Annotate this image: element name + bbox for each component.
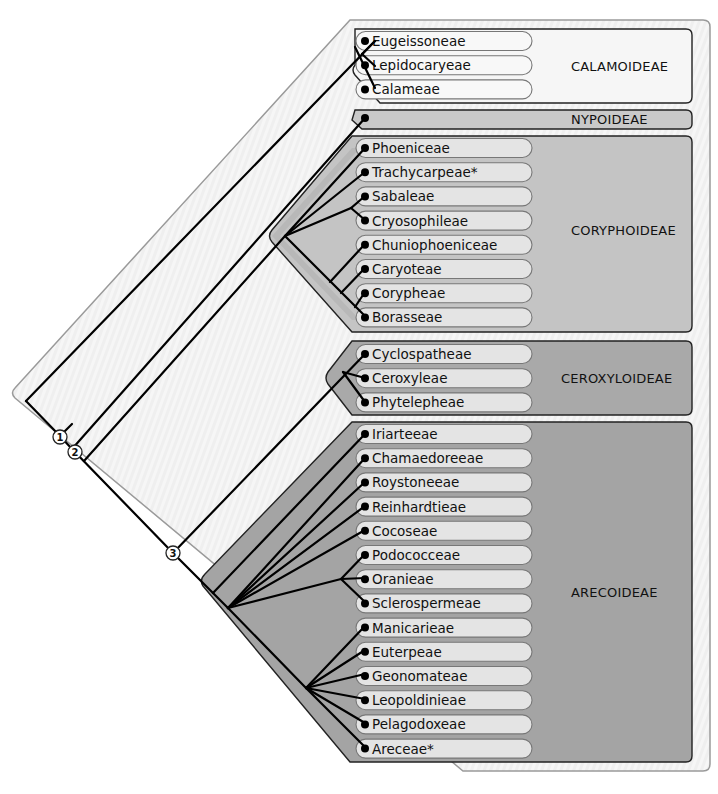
tip-dot-nypoideae xyxy=(361,114,369,122)
node-2: 2 xyxy=(68,445,82,459)
tribe-pill: Cryosophileae xyxy=(356,211,532,230)
tribe-pill: Cyclospatheae xyxy=(356,345,532,364)
tribe-label: Ceroxyleae xyxy=(372,370,447,386)
tip-dot-icon xyxy=(361,37,369,45)
tribe-label: Chuniophoeniceae xyxy=(372,237,497,253)
tribe-pill: Lepidocaryeae xyxy=(356,56,532,75)
svg-text:3: 3 xyxy=(170,548,177,559)
tribe-pill: Calameae xyxy=(356,80,532,99)
tribe-pill: Chuniophoeniceae xyxy=(356,235,532,254)
tribe-pill: Borasseae xyxy=(356,308,532,327)
label-nypoideae: NYPOIDEAE xyxy=(571,112,648,127)
tribe-label: Phoeniceae xyxy=(372,140,450,156)
tribe-pill: Caryoteae xyxy=(356,260,532,279)
node-1: 1 xyxy=(53,430,67,444)
tribe-label: Borasseae xyxy=(372,309,442,325)
tribe-label: Calameae xyxy=(372,81,440,97)
label-arecoideae: ARECOIDEAE xyxy=(571,585,658,600)
svg-text:2: 2 xyxy=(72,447,79,458)
tribe-label: Chamaedoreeae xyxy=(372,450,483,466)
tribe-label: Cryosophileae xyxy=(372,213,468,229)
tribe-label: Iriarteeae xyxy=(372,426,438,442)
tribe-label: Manicarieae xyxy=(372,620,454,636)
label-coryphoideae: CORYPHOIDEAE xyxy=(571,223,676,238)
tribe-label: Podococceae xyxy=(372,547,460,563)
tribe-label: Euterpeae xyxy=(372,644,442,660)
tribe-label: Cocoseae xyxy=(372,523,437,539)
svg-text:1: 1 xyxy=(57,432,64,443)
tribe-label: Eugeissoneae xyxy=(372,33,465,49)
tribe-label: Leopoldinieae xyxy=(372,692,466,708)
tribe-pill: Euterpeae xyxy=(356,642,532,661)
tribe-label: Sclerospermeae xyxy=(372,595,481,611)
tribe-label: Sabaleae xyxy=(372,188,434,204)
tribe-label: Areceae* xyxy=(372,741,434,757)
tribe-pill: Podococceae xyxy=(356,546,532,565)
tribe-label: Roystoneeae xyxy=(372,474,459,490)
tribe-pill: Leopoldinieae xyxy=(356,691,532,710)
tribe-pill: Sclerospermeae xyxy=(356,594,532,613)
tribe-label: Lepidocaryeae xyxy=(372,57,471,73)
tribe-pill: Phoeniceae xyxy=(356,139,532,158)
tribe-label: Reinhardtieae xyxy=(372,499,466,515)
tribe-pill: Corypheae xyxy=(356,284,532,303)
tribe-label: Geonomateae xyxy=(372,668,467,684)
tribe-label: Pelagodoxeae xyxy=(372,716,466,732)
label-calamoideae: CALAMOIDEAE xyxy=(571,59,668,74)
tribe-pill: Trachycarpeae* xyxy=(356,163,532,182)
label-ceroxyloideae: CEROXYLOIDEAE xyxy=(561,371,672,386)
tribe-pill: Manicarieae xyxy=(356,618,532,637)
phylogeny-diagram: EugeissoneaeLepidocaryeaeCalameaePhoenic… xyxy=(0,0,718,794)
tribe-pill: Iriarteeae xyxy=(356,425,532,444)
tribe-pill: Cocoseae xyxy=(356,521,532,540)
tribe-label: Cyclospatheae xyxy=(372,346,471,362)
tribe-pill: Sabaleae xyxy=(356,187,532,206)
tribe-pill: Oranieae xyxy=(356,570,532,589)
tribe-pill: Eugeissoneae xyxy=(356,32,532,51)
node-3: 3 xyxy=(166,546,180,560)
tip-dot-icon xyxy=(361,85,369,93)
tribe-label: Corypheae xyxy=(372,285,445,301)
tribe-pill: Geonomateae xyxy=(356,667,532,686)
tribe-label: Trachycarpeae* xyxy=(371,164,478,180)
tribe-pill: Reinhardtieae xyxy=(356,497,532,516)
tribe-pill: Ceroxyleae xyxy=(356,369,532,388)
tribe-pill: Chamaedoreeae xyxy=(356,449,532,468)
tribe-pill: Roystoneeae xyxy=(356,473,532,492)
tribe-label: Oranieae xyxy=(372,571,434,587)
tribe-label: Phytelepheae xyxy=(372,394,464,410)
tribe-pill: Areceae* xyxy=(356,739,532,758)
tribe-pill: Pelagodoxeae xyxy=(356,715,532,734)
tribe-label: Caryoteae xyxy=(372,261,442,277)
tribe-pill: Phytelepheae xyxy=(356,393,532,412)
